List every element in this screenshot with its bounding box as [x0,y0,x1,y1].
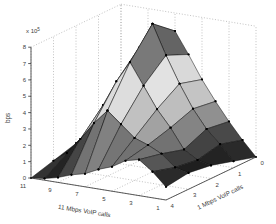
tick-label: 3 [193,192,197,198]
tick-label: 5 [23,93,27,99]
x-axis-label: 1 Mbps VoIP calls [196,183,245,212]
tick-label: 1 [238,171,242,177]
z-exponent-label: x 105 [26,27,40,35]
tick-label: 9 [48,187,52,193]
tick-label: 4 [23,110,27,116]
tick-label: 11 [20,183,27,189]
tick-label: 0 [261,160,265,166]
surface-mesh [30,23,257,188]
tick-label: 1 [23,159,27,165]
surface-plot-figure: 012345678119753143210 x 105 bps 11 Mbps … [0,0,276,224]
y-axis-label: 11 Mbps VoIP calls [58,203,112,219]
tick-label: 2 [23,143,27,149]
tick-label: 5 [102,196,106,202]
tick-label: 7 [75,191,79,197]
tick-label: 7 [23,61,27,67]
tick-label: 8 [23,44,27,50]
tick-label: 3 [129,200,133,206]
tick-label: 1 [156,205,160,211]
plot-canvas: 012345678119753143210 x 105 bps 11 Mbps … [0,0,276,224]
tick-label: 4 [171,203,175,209]
tick-label: 6 [23,77,27,83]
tick-label: 0 [23,175,27,181]
z-axis-label: bps [4,113,12,123]
tick-label: 3 [23,126,27,132]
tick-label: 2 [216,182,220,188]
